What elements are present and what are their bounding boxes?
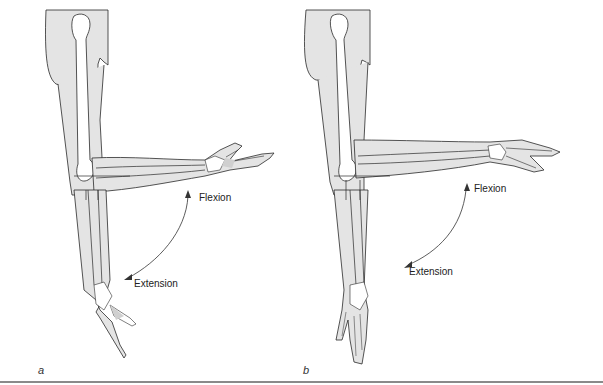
panel-letter-a: a bbox=[38, 364, 44, 376]
panel-b: Flexion Extension b bbox=[290, 0, 603, 380]
extension-label-a: Extension bbox=[134, 278, 178, 289]
flexion-label-b: Flexion bbox=[474, 183, 506, 194]
arm-illustration-b bbox=[290, 0, 603, 380]
extension-label-b: Extension bbox=[409, 266, 453, 277]
flexion-label-a: Flexion bbox=[199, 192, 231, 203]
bottom-rule bbox=[0, 381, 603, 383]
panel-a: Flexion Extension a bbox=[0, 0, 300, 380]
panel-letter-b: b bbox=[303, 364, 309, 376]
arm-illustration-a bbox=[0, 0, 300, 380]
